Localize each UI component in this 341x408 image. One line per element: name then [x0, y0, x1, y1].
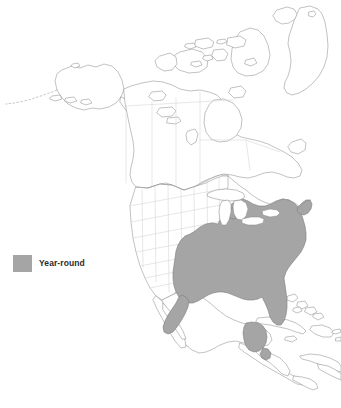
- legend-label-year-round: Year-round: [39, 259, 85, 268]
- map-legend: Year-round: [13, 255, 85, 272]
- map-canvas: [0, 0, 341, 408]
- range-map-figure: Year-round: [0, 0, 341, 408]
- lake-erie: [242, 217, 264, 225]
- legend-swatch-year-round: [13, 255, 32, 272]
- lesser-antilles-islet-1: [336, 337, 341, 341]
- devon-island-outline: [227, 36, 246, 48]
